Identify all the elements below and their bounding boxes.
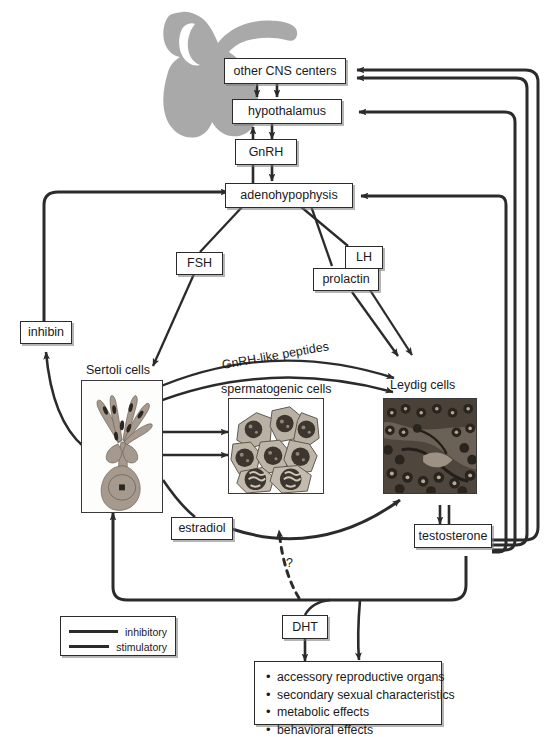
legend-row-stimulatory: stimulatory [69,639,167,654]
label-leydig-cells: Leydig cells [390,378,455,392]
node-label: GnRH [249,145,284,159]
node-dht[interactable]: DHT [282,615,328,639]
effect-item: metabolic effects [266,704,431,722]
node-label: testosterone [419,529,488,543]
node-inhibin[interactable]: inhibin [20,321,72,344]
legend-row-inhibitory: inhibitory [69,624,167,639]
target-effects-box: accessory reproductive organs secondary … [254,661,442,725]
node-other-cns-centers[interactable]: other CNS centers [224,58,346,84]
node-label: adenohypophysis [240,188,337,202]
node-fsh[interactable]: FSH [176,252,223,275]
spermatogenic-cells-image [228,398,324,494]
node-label: inhibin [28,325,64,339]
effect-item: secondary sexual characteristics [266,687,431,705]
node-adenohypophysis[interactable]: adenohypophysis [225,183,353,208]
node-testosterone[interactable]: testosterone [414,524,492,548]
label-sertoli-cells: Sertoli cells [86,363,150,377]
node-label: hypothalamus [248,104,326,118]
effect-item: behavioral effects [266,722,431,737]
node-prolactin[interactable]: prolactin [313,268,379,291]
legend: inhibitory stimulatory [60,616,176,656]
node-estradiol[interactable]: estradiol [171,517,233,540]
diagram-canvas: other CNS centers hypothalamus GnRH aden… [0,0,554,737]
node-hypothalamus[interactable]: hypothalamus [232,99,342,124]
legend-label-inhibitory: inhibitory [125,626,167,638]
node-label: FSH [187,256,212,270]
node-label: estradiol [178,521,225,535]
node-label: DHT [292,620,318,634]
leydig-cells-image [383,398,477,494]
legend-swatch-inhibitory [69,630,118,633]
node-gnrh[interactable]: GnRH [235,139,297,165]
label-question-mark: ? [286,556,293,570]
node-label: other CNS centers [234,64,337,78]
effect-item: accessory reproductive organs [266,669,431,687]
legend-label-stimulatory: stimulatory [116,641,167,653]
node-lh[interactable]: LH [345,246,383,269]
node-label: LH [356,250,372,264]
legend-swatch-stimulatory [69,645,109,648]
node-label: prolactin [322,272,369,286]
label-spermatogenic-cells: spermatogenic cells [221,382,331,396]
sertoli-cells-image [81,380,163,513]
target-effects-list: accessory reproductive organs secondary … [266,669,431,737]
